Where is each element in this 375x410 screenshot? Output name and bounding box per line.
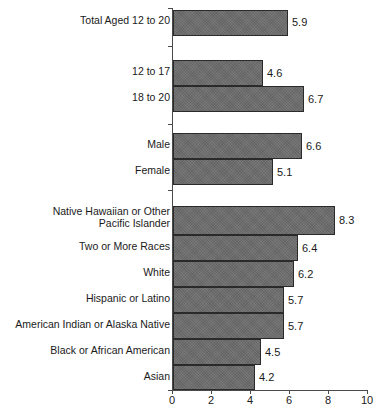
bar-value-label: 5.1 bbox=[277, 166, 292, 179]
category-label: Hispanic or Latino bbox=[0, 293, 170, 305]
bar-value-label: 4.5 bbox=[265, 346, 280, 359]
bar-value-label: 6.6 bbox=[306, 140, 321, 153]
category-label: Asian bbox=[0, 371, 170, 383]
bar-value-label: 6.2 bbox=[298, 268, 313, 281]
category-label: American Indian or Alaska Native bbox=[0, 319, 170, 331]
y-axis-tick bbox=[168, 190, 172, 191]
bar-value-label: 4.2 bbox=[259, 371, 274, 384]
bar-chart: 0 2 4 6 8 10 Total Aged 12 to 20 5.9 12 … bbox=[0, 0, 375, 410]
bar bbox=[173, 86, 304, 112]
bar-value-label: 8.3 bbox=[339, 214, 354, 227]
plot-area: 0 2 4 6 8 10 Total Aged 12 to 20 5.9 12 … bbox=[0, 0, 375, 410]
category-label: Native Hawaiian or Other Pacific Islande… bbox=[0, 206, 170, 229]
category-label: Total Aged 12 to 20 bbox=[0, 15, 170, 27]
x-axis-line bbox=[172, 390, 367, 391]
category-label: 18 to 20 bbox=[0, 92, 170, 104]
bar-value-label: 5.9 bbox=[292, 16, 307, 29]
bar bbox=[173, 261, 294, 287]
bar bbox=[173, 365, 255, 390]
bar-value-label: 6.7 bbox=[308, 93, 323, 106]
bar bbox=[173, 60, 263, 86]
bar bbox=[173, 206, 335, 235]
category-label: White bbox=[0, 267, 170, 279]
x-tick-label-2: 2 bbox=[199, 394, 223, 407]
bar-value-label: 4.6 bbox=[267, 67, 282, 80]
bar bbox=[173, 159, 273, 185]
category-label: Female bbox=[0, 165, 170, 177]
category-label: Black or African American bbox=[0, 345, 170, 357]
y-axis-tick bbox=[168, 46, 172, 47]
y-axis-tick bbox=[168, 124, 172, 125]
category-label: 12 to 17 bbox=[0, 66, 170, 78]
bar-value-label: 5.7 bbox=[288, 294, 303, 307]
x-tick-label-8: 8 bbox=[316, 394, 340, 407]
y-axis-tick bbox=[168, 8, 172, 9]
category-label: Male bbox=[0, 139, 170, 151]
bar bbox=[173, 313, 284, 339]
x-tick-label-6: 6 bbox=[277, 394, 301, 407]
bar bbox=[173, 287, 284, 313]
category-label: Two or More Races bbox=[0, 241, 170, 253]
bar bbox=[173, 235, 298, 261]
bar-value-label: 6.4 bbox=[302, 242, 317, 255]
x-tick-label-4: 4 bbox=[238, 394, 262, 407]
bar bbox=[173, 133, 302, 159]
x-tick-label-10: 10 bbox=[355, 394, 375, 407]
bar bbox=[173, 339, 261, 365]
bar-value-label: 5.7 bbox=[288, 320, 303, 333]
x-tick-label-0: 0 bbox=[160, 394, 184, 407]
bar bbox=[173, 10, 288, 36]
